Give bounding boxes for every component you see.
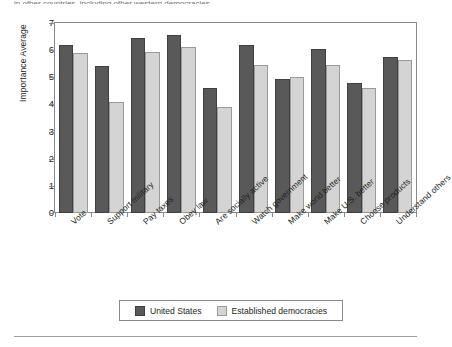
legend: United States Established democracies bbox=[119, 300, 343, 321]
x-axis-tick-mark bbox=[344, 213, 345, 217]
legend-item: United States bbox=[135, 306, 202, 316]
x-axis-tick-label: Pay taxes bbox=[141, 194, 175, 226]
x-axis-tick-label: Obey law bbox=[177, 195, 210, 226]
x-axis-tick-mark bbox=[199, 213, 200, 217]
x-axis-tick-mark bbox=[380, 213, 381, 217]
x-axis-tick-mark bbox=[55, 213, 56, 217]
legend-label: United States bbox=[150, 306, 202, 316]
legend-label: Established democracies bbox=[232, 306, 328, 316]
x-axis-tick-mark bbox=[127, 213, 128, 217]
x-axis-tick-mark bbox=[416, 213, 417, 217]
x-axis-tick-mark bbox=[236, 213, 237, 217]
x-axis-tick-mark bbox=[308, 213, 309, 217]
x-axis-tick-mark bbox=[91, 213, 92, 217]
x-axis-tick-label: Vote bbox=[69, 208, 88, 227]
legend-swatch-icon bbox=[135, 306, 145, 316]
legend-swatch-icon bbox=[217, 306, 227, 316]
bottom-divider bbox=[14, 336, 417, 337]
legend-item: Established democracies bbox=[217, 306, 328, 316]
x-axis-tick-mark bbox=[272, 213, 273, 217]
x-axis-tick-mark bbox=[163, 213, 164, 217]
